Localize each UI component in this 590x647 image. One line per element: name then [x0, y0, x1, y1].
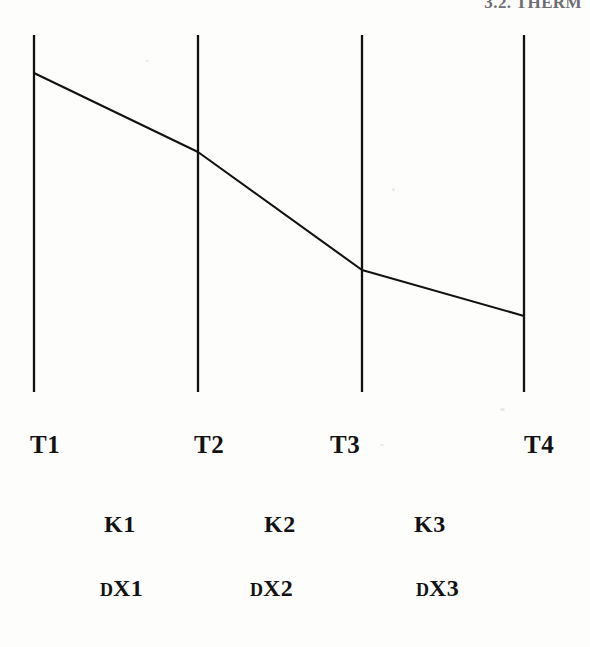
conductivity-label-1: K1: [104, 512, 136, 536]
thickness-label-3: DX3: [416, 576, 459, 600]
thickness-label-row: DX1DX2DX3: [0, 576, 590, 610]
wall-boundary-lines: [34, 35, 524, 392]
thickness-label-prefix: D: [100, 580, 113, 600]
thickness-label-prefix: D: [416, 580, 429, 600]
thermal-profile-figure: [0, 0, 590, 430]
figure-page: 3.2. THERM T1T2T3T4 K1K2K3 DX1DX2DX3: [0, 0, 590, 647]
temperature-label-3: T3: [330, 432, 360, 457]
thickness-label-suffix: X1: [113, 575, 143, 601]
conductivity-label-row: K1K2K3: [0, 512, 590, 546]
temperature-label-4: T4: [524, 432, 554, 457]
thickness-label-2: DX2: [250, 576, 293, 600]
temperature-label-2: T2: [194, 432, 224, 457]
temperature-label-1: T1: [30, 432, 60, 457]
thickness-label-suffix: X2: [263, 575, 293, 601]
conductivity-label-2: K2: [264, 512, 296, 536]
temperature-profile-line: [34, 73, 524, 316]
temperature-label-row: T1T2T3T4: [0, 432, 590, 466]
thickness-label-suffix: X3: [429, 575, 459, 601]
thickness-label-1: DX1: [100, 576, 143, 600]
conductivity-label-3: K3: [414, 512, 446, 536]
thickness-label-prefix: D: [250, 580, 263, 600]
